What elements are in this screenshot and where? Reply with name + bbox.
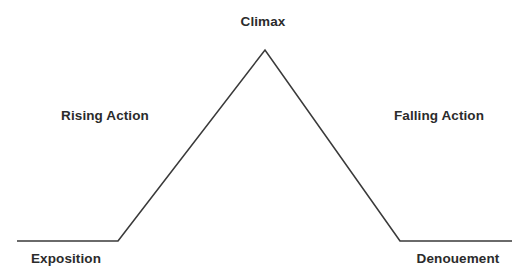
label-rising-action: Rising Action bbox=[61, 109, 149, 123]
label-exposition: Exposition bbox=[31, 252, 101, 266]
plot-arc-graphic bbox=[0, 0, 519, 278]
label-falling-action: Falling Action bbox=[394, 109, 484, 123]
label-climax: Climax bbox=[241, 15, 286, 29]
plot-diagram-canvas: Climax Rising Action Falling Action Expo… bbox=[0, 0, 519, 278]
narrative-arc-line bbox=[17, 50, 512, 241]
label-denouement: Denouement bbox=[417, 252, 500, 266]
